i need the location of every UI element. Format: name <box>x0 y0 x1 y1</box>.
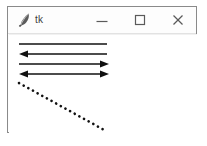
minimize-button[interactable] <box>86 7 118 33</box>
tk-window: tk <box>7 6 197 133</box>
canvas-drawing <box>9 35 197 133</box>
line-arrow-both <box>19 71 109 78</box>
line-arrow-last <box>19 61 109 68</box>
maximize-icon <box>124 7 156 33</box>
window-titlebar[interactable]: tk <box>8 7 196 34</box>
feather-quill-icon <box>17 12 32 29</box>
maximize-button[interactable] <box>124 7 156 33</box>
screenshot-root: tk <box>0 0 207 146</box>
window-title: tk <box>35 13 43 27</box>
close-button[interactable] <box>162 7 194 33</box>
minimize-icon <box>86 7 118 33</box>
close-icon <box>162 7 194 33</box>
tk-canvas[interactable] <box>9 34 197 133</box>
line-dotted-diagonal <box>19 83 106 131</box>
line-arrow-first <box>19 51 107 58</box>
